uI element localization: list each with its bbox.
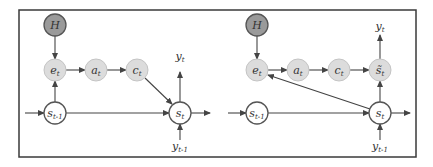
- output-label-text: yt: [374, 20, 384, 34]
- nodes-layer: Hetatctst-1stHetatcts̃tst-1st: [44, 14, 391, 124]
- right-node-a: at: [287, 59, 309, 81]
- right-node-stilde: s̃t: [369, 59, 391, 81]
- output-label-text: yt-1: [171, 140, 188, 154]
- left-node-e: et: [44, 59, 66, 81]
- node-label-text: H: [251, 19, 262, 32]
- right-node-e: et: [246, 59, 268, 81]
- diagram-frame: [19, 10, 416, 157]
- left-node-H: H: [44, 14, 66, 36]
- output-label-text: yt: [174, 50, 184, 64]
- left-node-a: at: [85, 59, 107, 81]
- right-node-H: H: [246, 14, 268, 36]
- right-node-c: ct: [328, 59, 350, 81]
- output-label-text: yt-1: [371, 140, 388, 154]
- left-node-sprev: st-1: [44, 102, 66, 124]
- right-node-sprev: st-1: [246, 102, 268, 124]
- edges-layer: [25, 35, 410, 140]
- labels-layer: ytyt-1ytyt-1: [171, 20, 388, 154]
- node-label-text: H: [49, 19, 60, 32]
- attention-diagram: Hetatctst-1stHetatcts̃tst-1st ytyt-1ytyt…: [0, 0, 433, 167]
- right-node-s: st: [369, 102, 391, 124]
- left-node-s: st: [169, 102, 191, 124]
- left-node-c: ct: [126, 59, 148, 81]
- arrow-edge: [268, 75, 370, 109]
- arrow-edge: [145, 78, 172, 104]
